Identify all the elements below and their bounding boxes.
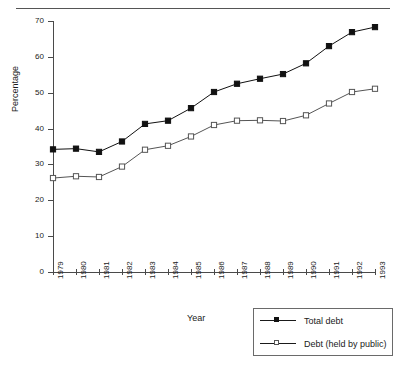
data-point-marker [119,139,124,144]
series-total-debt [50,25,377,155]
data-point-marker [303,113,308,118]
data-point-marker [326,44,331,49]
data-point-marker [349,30,354,35]
data-point-marker [73,146,78,151]
legend-item-total-debt[interactable]: Total debt [254,309,394,333]
legend-item-debt-held-by-public[interactable]: Debt (held by public) [254,332,394,356]
chart-figure: 010203040506070 197919801981198219831984… [0,0,400,371]
data-point-marker [372,25,377,30]
data-point-marker [188,134,193,139]
data-point-marker [257,118,262,123]
chart-legend: Total debt Debt (held by public) [253,308,393,356]
data-point-marker [142,121,147,126]
data-point-marker [96,149,101,154]
legend-label: Debt (held by public) [304,339,387,349]
data-point-marker [326,101,331,106]
data-point-marker [96,174,101,179]
data-point-marker [73,174,78,179]
data-point-marker [211,122,216,127]
data-point-marker [119,164,124,169]
legend-label: Total debt [304,316,343,326]
data-point-marker [142,147,147,152]
data-point-marker [372,86,377,91]
data-point-marker [165,143,170,148]
data-point-marker [50,147,55,152]
data-point-marker [234,81,239,86]
data-point-marker [211,89,216,94]
data-point-marker [165,118,170,123]
data-point-marker [280,118,285,123]
data-point-marker [303,61,308,66]
filled-square-icon [274,317,279,322]
data-point-marker [188,106,193,111]
data-point-marker [349,89,354,94]
data-point-marker [50,175,55,180]
data-point-marker [234,118,239,123]
series-debt-held-by-public [50,86,377,180]
data-point-marker [257,76,262,81]
open-square-icon [274,340,279,345]
data-point-marker [280,71,285,76]
